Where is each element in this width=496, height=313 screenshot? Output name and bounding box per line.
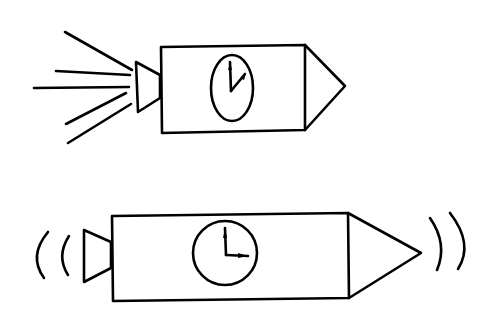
sound-waves-left [37,232,69,278]
exhaust-lines [34,32,132,143]
bottom-capsule [37,213,465,301]
top-capsule [34,32,345,143]
bottom-nozzle [84,230,111,282]
sound-waves-right [430,213,464,270]
diagram-canvas [0,0,496,313]
bottom-clock-icon [193,221,257,285]
top-clock-icon [211,55,253,121]
bottom-nose-cone [348,213,421,298]
top-nose-cone [305,45,345,130]
bottom-body [112,213,349,301]
top-nozzle [136,62,160,112]
